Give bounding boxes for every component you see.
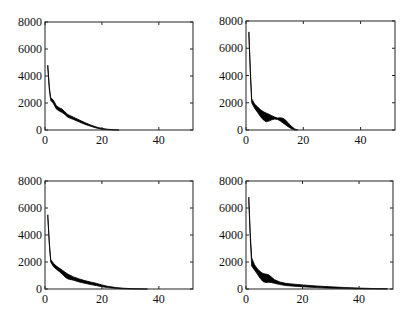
subplot-top-left: 0204002000400060008000 [18, 15, 193, 147]
axes-frame [45, 181, 193, 289]
y-tick-label: 6000 [219, 41, 243, 55]
y-tick-label: 4000 [219, 228, 243, 242]
y-tick-label: 0 [36, 123, 42, 137]
y-tick-label: 4000 [18, 69, 42, 83]
x-tick-label: 0 [243, 133, 249, 147]
x-tick-label: 40 [355, 133, 367, 147]
x-tick-label: 0 [42, 133, 48, 147]
y-tick-label: 8000 [18, 174, 42, 188]
figure: 0204002000400060008000 02040020004000600… [0, 0, 412, 317]
y-tick-label: 6000 [18, 201, 42, 215]
y-tick-label: 6000 [18, 42, 42, 56]
x-tick-label: 20 [96, 133, 108, 147]
y-tick-label: 6000 [219, 201, 243, 215]
y-tick-label: 0 [237, 282, 243, 296]
y-tick-label: 4000 [219, 69, 243, 83]
x-tick-label: 20 [297, 292, 309, 306]
data-series-band [249, 197, 387, 289]
y-tick-label: 2000 [18, 96, 42, 110]
y-tick-label: 8000 [219, 174, 243, 188]
y-tick-label: 8000 [219, 14, 243, 28]
x-tick-label: 40 [153, 133, 165, 147]
x-tick-label: 20 [297, 133, 309, 147]
x-tick-label: 20 [96, 292, 108, 306]
subplot-bottom-right: 0204002000400060008000 [219, 174, 393, 306]
subplot-bottom-left: 0204002000400060008000 [18, 174, 193, 306]
y-tick-label: 2000 [219, 96, 243, 110]
y-tick-label: 4000 [18, 228, 42, 242]
data-series-band [249, 32, 298, 130]
data-series-band [48, 65, 119, 130]
y-tick-label: 8000 [18, 15, 42, 29]
x-tick-label: 40 [353, 292, 365, 306]
y-tick-label: 0 [36, 282, 42, 296]
axes-frame [246, 181, 393, 289]
x-tick-label: 0 [42, 292, 48, 306]
subplot-top-right: 0204002000400060008000 [219, 14, 395, 147]
x-tick-label: 40 [153, 292, 165, 306]
y-tick-label: 0 [237, 123, 243, 137]
y-tick-label: 2000 [18, 255, 42, 269]
y-tick-label: 2000 [219, 255, 243, 269]
x-tick-label: 0 [243, 292, 249, 306]
data-series-band [48, 215, 148, 289]
